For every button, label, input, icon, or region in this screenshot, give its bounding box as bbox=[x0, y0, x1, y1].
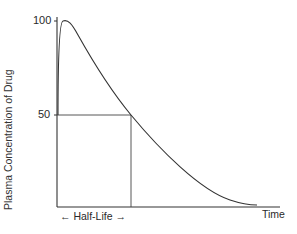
half-life-label: ← Half-Life → bbox=[60, 210, 126, 222]
y-tick-label-100: 100 bbox=[33, 14, 51, 26]
x-axis-label: Time bbox=[262, 208, 285, 220]
y-axis-label: Plasma Concentration of Drug bbox=[2, 69, 14, 210]
y-tick-label-50: 50 bbox=[38, 108, 50, 120]
concentration-curve bbox=[58, 21, 257, 205]
